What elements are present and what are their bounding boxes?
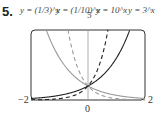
curve-0 (46, 30, 145, 98)
origin-tick: 0 (85, 103, 90, 114)
curve-3 (31, 30, 130, 98)
x-max-tick: 2 (148, 94, 153, 105)
x-min-tick: −2 (18, 94, 29, 105)
